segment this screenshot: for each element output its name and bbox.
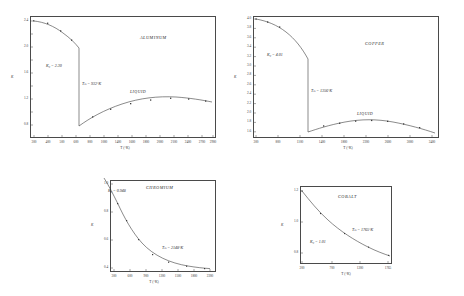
xtick-copper-4: 1800 (341, 141, 347, 144)
xtick-copper-1: 800 (276, 141, 281, 144)
k0-label-chromium: K₀ = 0.948 (108, 189, 126, 193)
xaxis-title-chromium: T (°K) (149, 281, 158, 285)
xtick-aluminum-1: 400 (46, 141, 51, 144)
ytick-copper-4: 3.2 (242, 55, 251, 58)
xtick-aluminum-3: 600 (74, 141, 79, 144)
y-axis-ticks (110, 184, 113, 268)
ytick-copper-3: 3.4 (242, 45, 251, 48)
panel-aluminum: 2.4 2.0 1.6 1.2 0.8 K 300 400 500 600 80… (30, 16, 216, 138)
xtick-aluminum-5: 1000 (101, 141, 107, 144)
data-point-markers (33, 20, 206, 117)
ytick-chromium-1: 0.8 (99, 210, 108, 213)
y-axis-ticks (300, 191, 303, 253)
xtick-chromium-1: 600 (128, 275, 133, 278)
data-point-markers (301, 190, 389, 256)
xaxis-title-aluminum: T (°K) (120, 147, 129, 151)
yaxis-title-aluminum: K (11, 76, 13, 80)
xtick-chromium-4: 1500 (175, 275, 181, 278)
xtick-chromium-3: 1200 (159, 275, 165, 278)
ytick-cobalt-1: 1.0 (289, 220, 298, 223)
xaxis-title-cobalt: T (°K) (341, 273, 350, 277)
yaxis-title-chromium: K (91, 224, 93, 228)
ytick-aluminum-0: 2.4 (19, 19, 28, 22)
ytick-copper-12: 1.6 (242, 130, 251, 133)
ytick-chromium-0: 1.0 (99, 182, 108, 185)
curve-area-aluminum (30, 16, 216, 138)
x-axis-ticks (34, 135, 213, 138)
ytick-copper-10: 2.0 (242, 111, 251, 114)
liquid-branch-curve (308, 120, 435, 133)
ytick-copper-9: 2.2 (242, 102, 251, 105)
xtick-aluminum-9: 2000 (157, 141, 163, 144)
xtick-aluminum-2: 500 (60, 141, 65, 144)
panel-chromium: 1.0 0.8 0.6 0.4 K 300 600 900 1200 1500 … (110, 180, 216, 272)
phase-label-aluminum-liquid: LIQUID (130, 90, 146, 94)
y-axis-ticks (253, 19, 256, 132)
xtick-copper-3: 1400 (319, 141, 325, 144)
xtick-cobalt-2: 1200 (357, 267, 363, 270)
solid-branch-curve (34, 21, 79, 48)
yaxis-title-copper: K (234, 76, 236, 80)
tm-label-chromium: Tₘ = 2148°K (162, 246, 183, 250)
xtick-chromium-5: 1800 (191, 275, 197, 278)
xtick-chromium-6: 2200 (207, 275, 213, 278)
solid-branch-curve (302, 191, 390, 256)
xtick-chromium-2: 900 (144, 275, 149, 278)
ytick-cobalt-2: 0.8 (289, 251, 298, 254)
tm-label-aluminum: Tₘ = 932°K (82, 82, 101, 86)
xtick-cobalt-3: 1765 (385, 267, 391, 270)
xtick-aluminum-7: 1600 (129, 141, 135, 144)
xtick-copper-5: 2200 (363, 141, 369, 144)
liquid-branch-curve (79, 97, 212, 126)
material-label-cobalt: COBALT (338, 195, 357, 199)
ytick-aluminum-1: 2.0 (19, 45, 28, 48)
material-label-aluminum: ALUMINUM (140, 36, 167, 40)
ytick-copper-5: 3.0 (242, 64, 251, 67)
data-point-markers (117, 203, 205, 269)
tm-label-copper: Tₘ = 1356°K (311, 89, 332, 93)
xtick-aluminum-6: 1400 (115, 141, 121, 144)
curve-area-copper (253, 16, 439, 138)
data-point-markers (255, 18, 420, 128)
ytick-aluminum-2: 1.6 (19, 71, 28, 74)
ytick-cobalt-0: 1.2 (289, 189, 298, 192)
panel-copper: 4.0 3.8 3.6 3.4 3.2 3.0 2.8 2.6 2.4 2.2 … (253, 16, 439, 138)
ytick-chromium-2: 0.6 (99, 238, 108, 241)
material-label-chromium: CHROMIUM (146, 186, 173, 190)
xtick-aluminum-11: 2400 (185, 141, 191, 144)
xaxis-title-copper: T (°K) (343, 147, 352, 151)
ytick-aluminum-3: 1.2 (19, 97, 28, 100)
panel-cobalt: 1.2 1.0 0.8 K 200 700 1200 1765 T (°K) C… (300, 186, 392, 264)
k0-label-aluminum: K₀ = 2.30 (46, 64, 62, 68)
phase-label-copper-liquid: LIQUID (357, 112, 373, 116)
ytick-aluminum-4: 0.8 (19, 123, 28, 126)
xtick-aluminum-8: 1800 (143, 141, 149, 144)
ytick-copper-6: 2.8 (242, 74, 251, 77)
xtick-copper-6: 2600 (385, 141, 391, 144)
k0-label-cobalt: K₀ = 1.01 (310, 240, 326, 244)
xtick-copper-7: 3000 (407, 141, 413, 144)
xtick-aluminum-13: 2900 (210, 141, 216, 144)
x-axis-ticks (302, 261, 388, 264)
xtick-cobalt-0: 200 (300, 267, 305, 270)
material-label-copper: COPPER (365, 42, 384, 46)
xtick-aluminum-10: 2100 (171, 141, 177, 144)
ytick-copper-1: 3.8 (242, 27, 251, 30)
ytick-chromium-3: 0.4 (99, 266, 108, 269)
ytick-copper-8: 2.4 (242, 92, 251, 95)
ytick-copper-0: 4.0 (242, 17, 251, 20)
xtick-aluminum-12: 2700 (199, 141, 205, 144)
curve-area-chromium (110, 180, 216, 272)
xtick-aluminum-0: 300 (32, 141, 37, 144)
xtick-copper-2: 1100 (297, 141, 303, 144)
xtick-copper-0: 300 (254, 141, 259, 144)
k0-label-copper: K₀ = 4.01 (267, 53, 283, 57)
y-axis-ticks (30, 21, 33, 125)
xtick-chromium-0: 300 (112, 275, 117, 278)
yaxis-title-cobalt: K (281, 224, 283, 228)
x-axis-ticks (256, 135, 432, 138)
xtick-copper-8: 3400 (429, 141, 435, 144)
xtick-aluminum-4: 800 (88, 141, 93, 144)
ytick-copper-2: 3.6 (242, 36, 251, 39)
xtick-cobalt-1: 700 (330, 267, 335, 270)
